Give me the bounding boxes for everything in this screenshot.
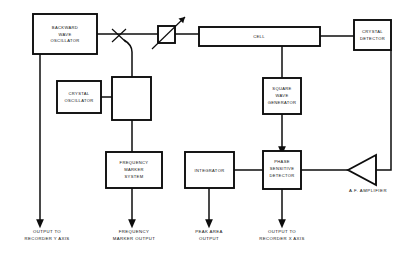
block-integrator[interactable]: INTEGRATOR — [185, 152, 234, 188]
af-amplifier-label: A.F. AMPLIFIER — [349, 188, 387, 193]
block-cell[interactable]: CELL — [199, 27, 320, 46]
block-backward-wave-oscillator[interactable]: BACKWARD WAVE OSCILLATOR — [33, 14, 97, 54]
psd-label-line3: DETECTOR — [269, 173, 294, 178]
psd-label-line2: SENSITIVE — [270, 166, 295, 171]
bwo-label-line3: OSCILLATOR — [50, 38, 79, 43]
freq-marker-label-line2: MARKER — [124, 167, 144, 172]
block-phase-sensitive-detector[interactable]: PHASE SENSITIVE DETECTOR — [263, 151, 301, 189]
crystal-detector-label-line2: DETECTOR — [360, 36, 385, 41]
square-wave-gen-label-line3: GENERATOR — [268, 100, 297, 105]
output-label-recorder-x-axis: OUTPUT TO RECORDER X AXIS — [259, 229, 304, 241]
crystal-detector-label-line1: CRYSTAL — [362, 29, 383, 34]
output-label-frequency-marker: FREQUENCY MARKER OUTPUT — [113, 229, 155, 241]
freq-marker-label-line3: SYSTEM — [125, 174, 144, 179]
wire-layer — [40, 34, 391, 224]
output-label-recorder-y-axis: OUTPUT TO RECORDER Y AXIS — [24, 229, 69, 241]
directional-coupler-icon — [112, 29, 126, 42]
square-wave-gen-label-line2: WAVE — [276, 93, 289, 98]
out-peak-line2: OUTPUT — [199, 236, 219, 241]
out-x-line2: RECORDER X AXIS — [259, 236, 304, 241]
block-square-wave-generator[interactable]: SQUARE WAVE GENERATOR — [263, 78, 301, 114]
cell-label: CELL — [253, 34, 265, 39]
block-mixer[interactable] — [112, 77, 151, 120]
block-crystal-oscillator[interactable]: CRYSTAL OSCILLATOR — [57, 81, 101, 113]
wire-crystal-detector-to-af-amplifier — [376, 50, 391, 170]
af-amplifier-symbol[interactable]: A.F. AMPLIFIER — [348, 155, 387, 193]
crystal-oscillator-label-line2: OSCILLATOR — [64, 98, 93, 103]
out-fm-line2: MARKER OUTPUT — [113, 236, 155, 241]
out-y-line1: OUTPUT TO — [33, 229, 61, 234]
square-wave-gen-label-line1: SQUARE — [272, 86, 291, 91]
out-peak-line1: PEAK AREA — [195, 229, 223, 234]
block-crystal-detector[interactable]: CRYSTAL DETECTOR — [354, 20, 391, 50]
psd-label-line1: PHASE — [274, 159, 290, 164]
block-diagram: BACKWARD WAVE OSCILLATOR CELL CRYSTAL DE… — [0, 0, 414, 256]
output-label-peak-area: PEAK AREA OUTPUT — [195, 229, 223, 241]
variable-attenuator-icon — [152, 17, 185, 49]
diagram-canvas: BACKWARD WAVE OSCILLATOR CELL CRYSTAL DE… — [0, 0, 414, 256]
integrator-label: INTEGRATOR — [195, 168, 225, 173]
crystal-oscillator-label-line1: CRYSTAL — [69, 91, 90, 96]
block-frequency-marker-system[interactable]: FREQUENCY MARKER SYSTEM — [106, 152, 162, 188]
out-x-line1: OUTPUT TO — [268, 229, 296, 234]
out-fm-line1: FREQUENCY — [119, 229, 150, 234]
out-y-line2: RECORDER Y AXIS — [24, 236, 69, 241]
bwo-label-line1: BACKWARD — [52, 25, 78, 30]
wire-coupler-to-mixer — [124, 40, 132, 77]
bwo-label-line2: WAVE — [59, 32, 72, 37]
freq-marker-label-line1: FREQUENCY — [120, 160, 149, 165]
